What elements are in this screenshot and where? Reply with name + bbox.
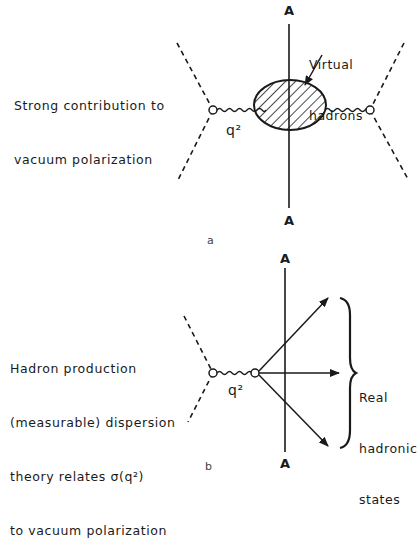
- caption-b-line2: (measurable) dispersion: [10, 414, 176, 432]
- vertex-a-left: [209, 106, 217, 114]
- external-line-a-right-lower: [370, 110, 409, 181]
- caption-b: Hadron production (measurable) dispersio…: [10, 324, 176, 542]
- caption-a: Strong contribution to vacuum polarizati…: [14, 61, 165, 187]
- caption-b-line3: theory relates σ(q²): [10, 468, 176, 486]
- external-line-b-upper: [184, 316, 213, 373]
- cut-label-a-bottom: A: [284, 213, 294, 228]
- photon-propagator-b: [217, 372, 256, 375]
- panel-label-a: a: [207, 234, 214, 247]
- caption-a-line1: Strong contribution to: [14, 97, 165, 115]
- external-line-a-left-lower: [178, 110, 213, 180]
- caption-a-line2: vacuum polarization: [14, 151, 165, 169]
- diagram-a: [177, 24, 409, 208]
- external-line-b-lower: [188, 373, 213, 422]
- states-label-line2: hadronic: [359, 440, 417, 457]
- propagator-label-b: q²: [228, 382, 244, 399]
- external-line-a-left-upper: [177, 43, 213, 110]
- hadron-arrow-lower: [259, 375, 328, 446]
- vertex-a-right: [366, 106, 374, 114]
- virtual-hadrons-label: Virtual hadrons: [309, 22, 363, 141]
- real-hadronic-states-label: Real hadronic states: [359, 355, 417, 525]
- states-label-line1: Real: [359, 389, 417, 406]
- vertex-b-right: [251, 369, 259, 377]
- propagator-label-a: q²: [226, 122, 242, 139]
- caption-b-line4: to vacuum polarization: [10, 522, 176, 540]
- diagram-b: [184, 268, 356, 452]
- cut-label-a-top: A: [284, 3, 294, 18]
- states-label-line3: states: [359, 491, 417, 508]
- hadron-arrow-upper: [259, 298, 328, 371]
- panel-label-b: b: [205, 460, 212, 473]
- vertex-b-left: [209, 369, 217, 377]
- cut-label-b-top: A: [280, 251, 290, 266]
- caption-b-line1: Hadron production: [10, 360, 176, 378]
- virtual-hadrons-label-line2: hadrons: [309, 107, 363, 124]
- cut-label-b-bottom: A: [280, 456, 290, 471]
- virtual-hadrons-label-line1: Virtual: [309, 56, 363, 73]
- external-line-a-right-upper: [370, 43, 404, 110]
- curly-brace: [340, 298, 356, 448]
